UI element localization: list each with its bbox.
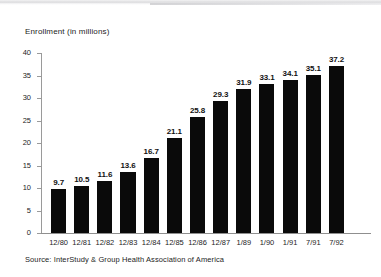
- bar-value-label: 21.1: [163, 127, 186, 136]
- bar-group: 31.91/89: [232, 53, 255, 233]
- bar-group: 34.11/91: [279, 53, 302, 233]
- y-axis-tick-label: 35: [23, 71, 31, 80]
- y-axis-tick-label: 0: [27, 228, 31, 237]
- bar: [306, 75, 321, 233]
- source-note: Source: InterStudy & Group Health Associ…: [25, 255, 224, 264]
- bar-group: 9.712/80: [47, 53, 70, 233]
- y-axis-tick: 0: [37, 233, 41, 234]
- bar-value-label: 33.1: [255, 73, 278, 82]
- bar-value-label: 35.1: [302, 64, 325, 73]
- bar-value-label: 37.2: [325, 55, 348, 64]
- bar-value-label: 13.6: [116, 161, 139, 170]
- bar: [74, 186, 89, 233]
- bar: [51, 189, 66, 233]
- bar-value-label: 10.5: [70, 175, 93, 184]
- y-axis-tick-label: 10: [23, 183, 31, 192]
- bar-group: 37.27/92: [325, 53, 348, 233]
- bar-group: 29.312/87: [209, 53, 232, 233]
- bar: [213, 101, 228, 233]
- bar: [236, 89, 251, 233]
- y-axis-tick-label: 40: [23, 48, 31, 57]
- scan-edge-line: [150, 3, 381, 5]
- bar-value-label: 16.7: [140, 147, 163, 156]
- bar: [120, 172, 135, 233]
- bar-value-label: 29.3: [209, 90, 232, 99]
- plot-area: 0510152025303540 9.712/8010.512/8111.612…: [41, 53, 371, 233]
- bar-group: 21.112/85: [163, 53, 186, 233]
- bar-value-label: 25.8: [186, 106, 209, 115]
- bar: [167, 138, 182, 233]
- chart-title: Enrollment (in millions): [25, 27, 110, 36]
- bar: [97, 181, 112, 233]
- bar-value-label: 34.1: [279, 69, 302, 78]
- y-axis-tick-label: 5: [27, 206, 31, 215]
- y-axis-tick-label: 25: [23, 116, 31, 125]
- bar: [329, 66, 344, 233]
- bar-group: 13.612/83: [116, 53, 139, 233]
- bar-value-label: 9.7: [47, 178, 70, 187]
- bar-group: 33.11/90: [255, 53, 278, 233]
- bar-group: 10.512/81: [70, 53, 93, 233]
- bar-value-label: 11.6: [93, 170, 116, 179]
- bar-group: 16.712/84: [140, 53, 163, 233]
- bar-series: 9.712/8010.512/8111.612/8213.612/8316.71…: [41, 53, 371, 233]
- y-axis-tick-label: 15: [23, 161, 31, 170]
- bar: [144, 158, 159, 233]
- bar-group: 11.612/82: [93, 53, 116, 233]
- bar: [283, 80, 298, 233]
- x-axis-category-label: 7/92: [321, 238, 352, 247]
- bar: [259, 84, 274, 233]
- y-axis-tick-label: 20: [23, 138, 31, 147]
- bar-group: 25.812/86: [186, 53, 209, 233]
- bar-value-label: 31.9: [232, 78, 255, 87]
- x-axis-line: [41, 233, 371, 234]
- bar: [190, 117, 205, 233]
- bar-group: 35.17/91: [302, 53, 325, 233]
- y-axis-tick-label: 30: [23, 93, 31, 102]
